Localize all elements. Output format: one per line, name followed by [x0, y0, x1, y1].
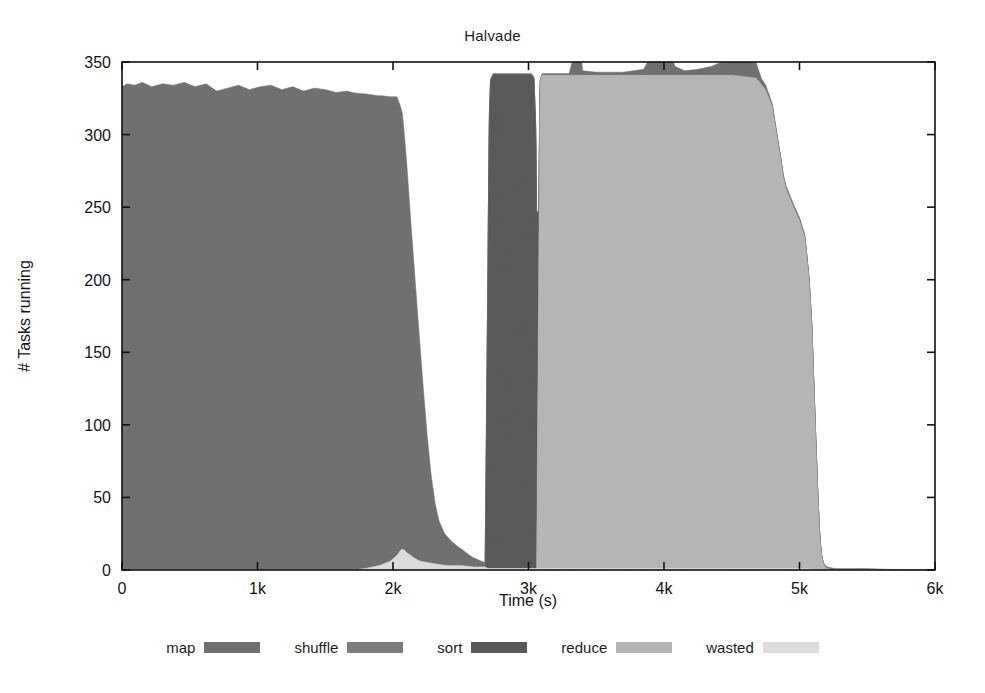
y-tick-label: 200 — [84, 272, 111, 289]
x-tick-label: 6k — [927, 580, 945, 597]
legend-label-map: map — [166, 639, 195, 656]
legend-item-wasted[interactable]: wasted — [706, 639, 819, 656]
chart-legend: map shuffle sort reduce wasted — [0, 639, 985, 656]
legend-item-map[interactable]: map — [166, 639, 260, 656]
y-tick-label: 350 — [84, 54, 111, 71]
x-tick-label: 2k — [385, 580, 403, 597]
legend-swatch-sort — [471, 642, 527, 653]
chart-plot-area: 01k2k3k4k5k6k050100150200250300350 Time … — [0, 0, 985, 693]
y-tick-label: 150 — [84, 344, 111, 361]
x-tick-label: 1k — [249, 580, 267, 597]
legend-swatch-reduce — [616, 642, 672, 653]
legend-swatch-wasted — [763, 642, 819, 653]
y-tick-label: 0 — [102, 562, 111, 579]
y-tick-label: 50 — [93, 489, 111, 506]
y-tick-label: 250 — [84, 199, 111, 216]
y-tick-label: 100 — [84, 417, 111, 434]
legend-label-shuffle: shuffle — [294, 639, 338, 656]
legend-swatch-shuffle — [347, 642, 403, 653]
stacked-area-bands — [122, 0, 935, 570]
legend-item-reduce[interactable]: reduce — [561, 639, 672, 656]
legend-item-shuffle[interactable]: shuffle — [294, 639, 403, 656]
x-tick-label: 5k — [791, 580, 809, 597]
x-tick-label: 4k — [656, 580, 674, 597]
y-tick-label: 300 — [84, 127, 111, 144]
legend-swatch-map — [204, 642, 260, 653]
x-tick-label: 0 — [118, 580, 127, 597]
y-axis-label: # Tasks running — [16, 260, 33, 372]
legend-label-reduce: reduce — [561, 639, 607, 656]
legend-label-sort: sort — [437, 639, 462, 656]
x-axis-label: Time (s) — [499, 592, 557, 609]
legend-item-sort[interactable]: sort — [437, 639, 527, 656]
chart-figure: Halvade 01k2k3k4k5k6k0501001502002503003… — [0, 0, 985, 693]
legend-label-wasted: wasted — [706, 639, 754, 656]
